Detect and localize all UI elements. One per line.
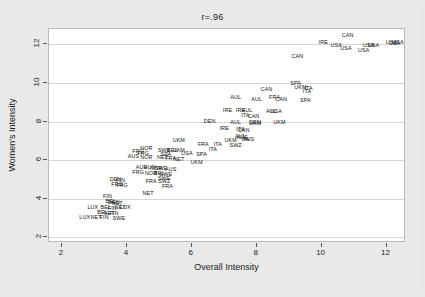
data-point-label: NET bbox=[142, 191, 153, 196]
data-point-label: ITA bbox=[303, 89, 311, 94]
x-tick-mark bbox=[191, 243, 192, 247]
data-point-label: NET bbox=[173, 157, 184, 162]
y-tick-label: 10 bbox=[32, 78, 41, 87]
y-tick-label: 12 bbox=[32, 39, 41, 48]
data-point-label: FRG bbox=[116, 183, 128, 188]
data-point-label: IRE bbox=[220, 127, 229, 132]
x-tick-label: 8 bbox=[253, 248, 257, 257]
y-axis-title: Women's Intensity bbox=[7, 98, 17, 171]
data-point-label: DEN bbox=[204, 119, 216, 124]
y-tick-label: 2 bbox=[37, 232, 41, 241]
data-point-label: SPA bbox=[196, 153, 207, 158]
gridline-y-2 bbox=[49, 237, 404, 238]
data-point-label: IRE bbox=[319, 40, 328, 45]
y-tick-label: 8 bbox=[37, 116, 41, 125]
x-tick-mark bbox=[321, 243, 322, 247]
data-point-label: USA bbox=[358, 48, 369, 53]
x-tick-label: 12 bbox=[381, 248, 390, 257]
x-tick-label: 4 bbox=[124, 248, 128, 257]
gridline-y-6 bbox=[49, 160, 404, 161]
data-point-label: SWZ bbox=[229, 143, 241, 148]
data-point-label: CAN bbox=[275, 98, 287, 103]
figure-canvas: r=.96 Women's Intensity CANIREUSAUSAUSAU… bbox=[6, 4, 419, 288]
x-tick-label: 10 bbox=[316, 248, 325, 257]
x-tick-mark bbox=[256, 243, 257, 247]
y-tick-mark bbox=[43, 82, 47, 83]
y-tick-mark bbox=[43, 43, 47, 44]
plot-area: CANIREUSAUSAUSAUSAUSAUSAUSAUSACANSPAUKMI… bbox=[48, 28, 405, 242]
y-tick-label: 6 bbox=[37, 155, 41, 164]
data-point-label: SWE bbox=[113, 216, 126, 221]
data-point-label: ITA bbox=[209, 147, 217, 152]
x-tick-mark bbox=[61, 243, 62, 247]
data-point-label: USA bbox=[270, 109, 281, 114]
data-point-label: CAN bbox=[342, 33, 354, 38]
data-point-label: ITA bbox=[241, 137, 249, 142]
x-tick-mark bbox=[126, 243, 127, 247]
data-point-label: UKM bbox=[249, 121, 261, 126]
data-point-label: AUL bbox=[251, 98, 262, 103]
data-point-label: CAN bbox=[261, 87, 273, 92]
data-point-label: AUS bbox=[128, 154, 139, 159]
y-tick-mark bbox=[43, 198, 47, 199]
x-tick-label: 2 bbox=[59, 248, 63, 257]
data-point-label: UKM bbox=[273, 120, 285, 125]
x-axis-title: Overall Intensity bbox=[48, 262, 405, 272]
data-point-label: NOR bbox=[140, 155, 152, 160]
data-point-label: FRG bbox=[132, 170, 144, 175]
y-tick-mark bbox=[43, 121, 47, 122]
chart-figure: r=.96 Women's Intensity CANIREUSAUSAUSAU… bbox=[0, 0, 425, 297]
data-point-label: LUX bbox=[120, 206, 131, 211]
data-point-label: UKM bbox=[191, 160, 203, 165]
data-point-label: AUL bbox=[230, 120, 241, 125]
y-tick-mark bbox=[43, 159, 47, 160]
x-tick-label: 6 bbox=[189, 248, 193, 257]
y-tick-mark bbox=[43, 236, 47, 237]
data-point-label: FRA bbox=[146, 180, 157, 185]
x-tick-mark bbox=[386, 243, 387, 247]
data-point-label: CAN bbox=[291, 54, 303, 59]
data-point-label: FIN bbox=[100, 215, 109, 220]
data-point-label: AUL bbox=[230, 96, 241, 101]
data-point-label: LUX bbox=[79, 215, 90, 220]
data-point-label: USA bbox=[340, 46, 351, 51]
data-point-label: USA bbox=[368, 44, 379, 49]
chart-title: r=.96 bbox=[6, 12, 419, 22]
data-point-label: SPA bbox=[300, 99, 311, 104]
gridline-y-10 bbox=[49, 83, 404, 84]
y-tick-label: 4 bbox=[37, 193, 41, 202]
data-point-label: FRA bbox=[198, 142, 209, 147]
data-point-label: IRE bbox=[223, 108, 232, 113]
gridline-y-8 bbox=[49, 122, 404, 123]
data-point-label: UKM bbox=[173, 138, 185, 143]
data-point-label: USA bbox=[389, 42, 400, 47]
data-point-label: FRA bbox=[162, 184, 173, 189]
